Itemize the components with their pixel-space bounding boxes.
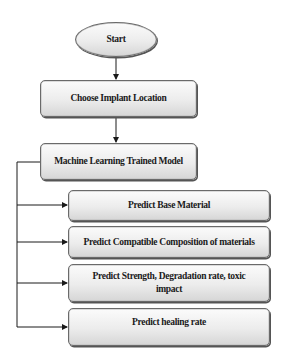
output-predict-strength: Predict Strength, Degradation rate, toxi… [68, 264, 270, 302]
step-choose-implant-location: Choose Implant Location [40, 80, 197, 117]
output-label: Predict Strength, Degradation rate, toxi… [83, 270, 255, 296]
output-label: Predict healing rate [132, 316, 206, 329]
flowchart-canvas: Start Choose Implant Location Machine Le… [0, 0, 285, 362]
start-node: Start [75, 22, 157, 57]
output-label: Predict Compatible Composition of materi… [83, 236, 254, 249]
start-label: Start [106, 33, 125, 46]
bracket-line [17, 162, 40, 327]
output-predict-composition: Predict Compatible Composition of materi… [68, 226, 270, 258]
step-label: Choose Implant Location [70, 92, 166, 105]
step-ml-trained-model: Machine Learning Trained Model [40, 143, 197, 180]
output-label: Predict Base Material [128, 199, 210, 212]
output-predict-healing-rate: Predict healing rate [68, 308, 270, 346]
step-label: Machine Learning Trained Model [54, 155, 183, 168]
output-predict-base-material: Predict Base Material [68, 190, 270, 221]
